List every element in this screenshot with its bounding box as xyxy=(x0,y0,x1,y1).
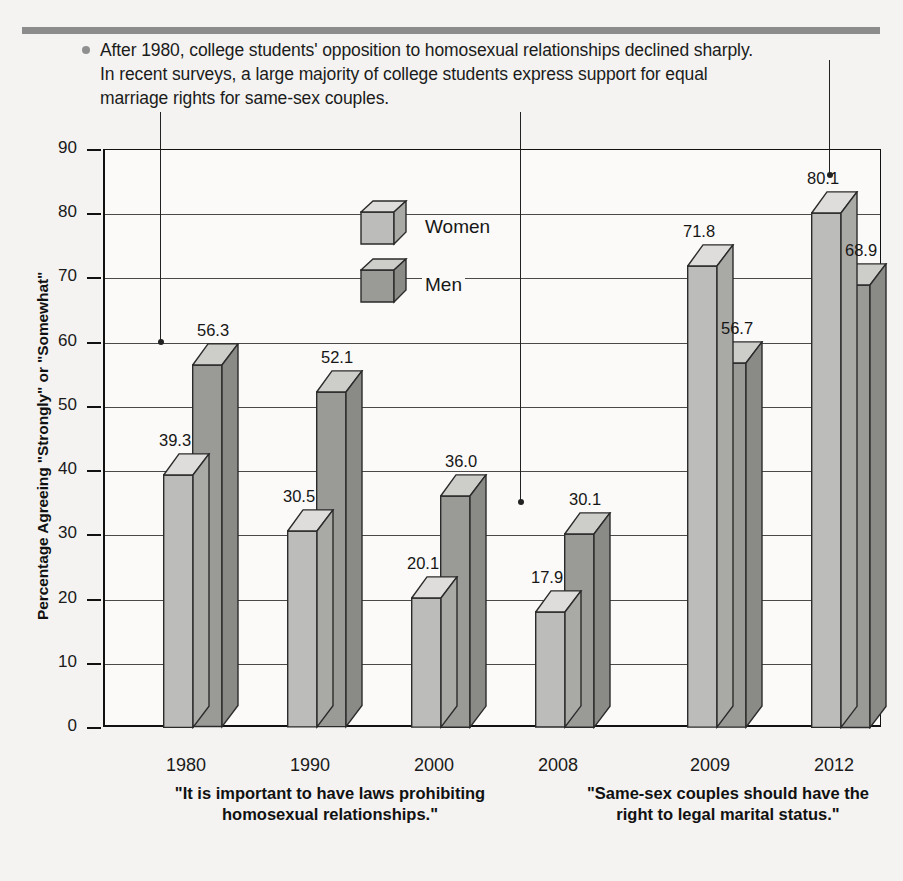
legend-label-women: Women xyxy=(422,216,493,238)
bar-women-1980-shape xyxy=(163,453,211,729)
bar-women-2008[interactable] xyxy=(535,590,581,727)
y-tick-10 xyxy=(87,663,101,665)
cube-icon xyxy=(360,258,412,310)
gridline-70 xyxy=(105,278,880,279)
bar-women-1990-shape xyxy=(287,509,335,729)
legend-swatch-women[interactable] xyxy=(360,200,412,252)
x-axis-label-2012: 2012 xyxy=(789,755,879,776)
x-axis-label-1980: 1980 xyxy=(141,755,231,776)
bar-women-2000-shape xyxy=(411,576,459,729)
data-label-men-2009: 56.7 xyxy=(721,319,753,338)
bar-women-2009[interactable] xyxy=(687,244,733,727)
bullet-icon xyxy=(82,46,90,54)
y-tick-50 xyxy=(87,406,101,408)
group-caption-2: "Same-sex couples should have the right … xyxy=(578,783,878,825)
chart-caption-text: After 1980, college students' opposition… xyxy=(100,40,753,108)
y-tick-60 xyxy=(87,342,101,344)
y-tick-40 xyxy=(87,470,101,472)
legend-swatch-men[interactable] xyxy=(360,258,412,310)
x-axis-label-2008: 2008 xyxy=(513,755,603,776)
data-label-women-2009: 71.8 xyxy=(683,222,715,241)
y-tick-80 xyxy=(87,213,101,215)
x-axis-label-2009: 2009 xyxy=(665,755,755,776)
leader-line-1 xyxy=(160,112,161,342)
chart-caption: After 1980, college students' opposition… xyxy=(100,38,760,110)
group-caption-1: "It is important to have laws prohibitin… xyxy=(140,783,520,825)
leader-line-3 xyxy=(829,60,830,175)
bar-women-2008-shape xyxy=(535,590,583,729)
leader-dot-1 xyxy=(158,339,164,345)
y-tick-20 xyxy=(87,599,101,601)
y-tick-70 xyxy=(87,277,101,279)
header-rule xyxy=(22,27,880,34)
y-axis-title: Percentage Agreeing "Strongly" or "Somew… xyxy=(34,272,52,620)
y-tick-0 xyxy=(87,727,101,729)
cube-icon xyxy=(360,200,412,252)
data-label-women-1990: 30.5 xyxy=(283,487,315,506)
y-axis-label-90: 90 xyxy=(31,138,77,158)
data-label-men-2000: 36.0 xyxy=(445,452,477,471)
y-tick-90 xyxy=(87,149,101,151)
leader-line-2 xyxy=(520,112,521,502)
data-label-women-1980: 39.3 xyxy=(159,431,191,450)
x-axis-label-1990: 1990 xyxy=(265,755,355,776)
data-label-women-2008: 17.9 xyxy=(531,568,563,587)
bar-women-1980[interactable] xyxy=(163,453,209,727)
bar-women-1990[interactable] xyxy=(287,509,333,727)
bar-women-2012-shape xyxy=(811,191,859,729)
leader-dot-3 xyxy=(827,172,833,178)
bar-women-2000[interactable] xyxy=(411,576,457,727)
x-axis-label-2000: 2000 xyxy=(389,755,479,776)
y-axis-label-0: 0 xyxy=(31,716,77,736)
legend-label-men: Men xyxy=(422,274,465,296)
bar-women-2009-shape xyxy=(687,244,735,729)
bar-women-2012[interactable] xyxy=(811,191,857,727)
data-label-women-2000: 20.1 xyxy=(407,554,439,573)
data-label-men-2008: 30.1 xyxy=(569,490,601,509)
data-label-men-2012: 68.9 xyxy=(845,241,877,260)
y-axis-label-10: 10 xyxy=(31,652,77,672)
y-axis-label-80: 80 xyxy=(31,202,77,222)
data-label-women-2012: 80.1 xyxy=(807,169,839,188)
data-label-men-1990: 52.1 xyxy=(321,348,353,367)
data-label-men-1980: 56.3 xyxy=(197,321,229,340)
y-tick-30 xyxy=(87,534,101,536)
